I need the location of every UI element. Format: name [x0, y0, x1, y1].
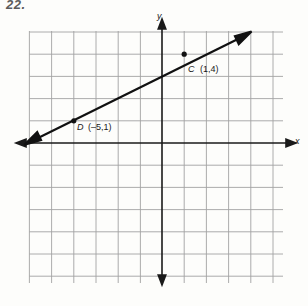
point-d-letter: D [77, 122, 84, 132]
point-c-letter: C [188, 64, 195, 74]
x-axis-label: x [295, 136, 300, 146]
y-axis-label: y [157, 11, 162, 21]
grid-lines [29, 31, 283, 283]
point-c-dot [182, 52, 187, 57]
point-d-dot [71, 118, 76, 123]
line-arrow-upper-right [235, 32, 252, 45]
point-d-coordinates: (–5,1) [88, 122, 112, 132]
graph-svg [0, 0, 308, 306]
x-axis-arrow-left [16, 139, 26, 147]
coordinate-plane-figure: C (1,4) D (–5,1) y x [0, 0, 308, 306]
y-axis-arrow-down [158, 275, 166, 285]
plotted-line [25, 32, 252, 145]
point-c-coordinates: (1,4) [200, 64, 219, 74]
axes [16, 19, 296, 285]
